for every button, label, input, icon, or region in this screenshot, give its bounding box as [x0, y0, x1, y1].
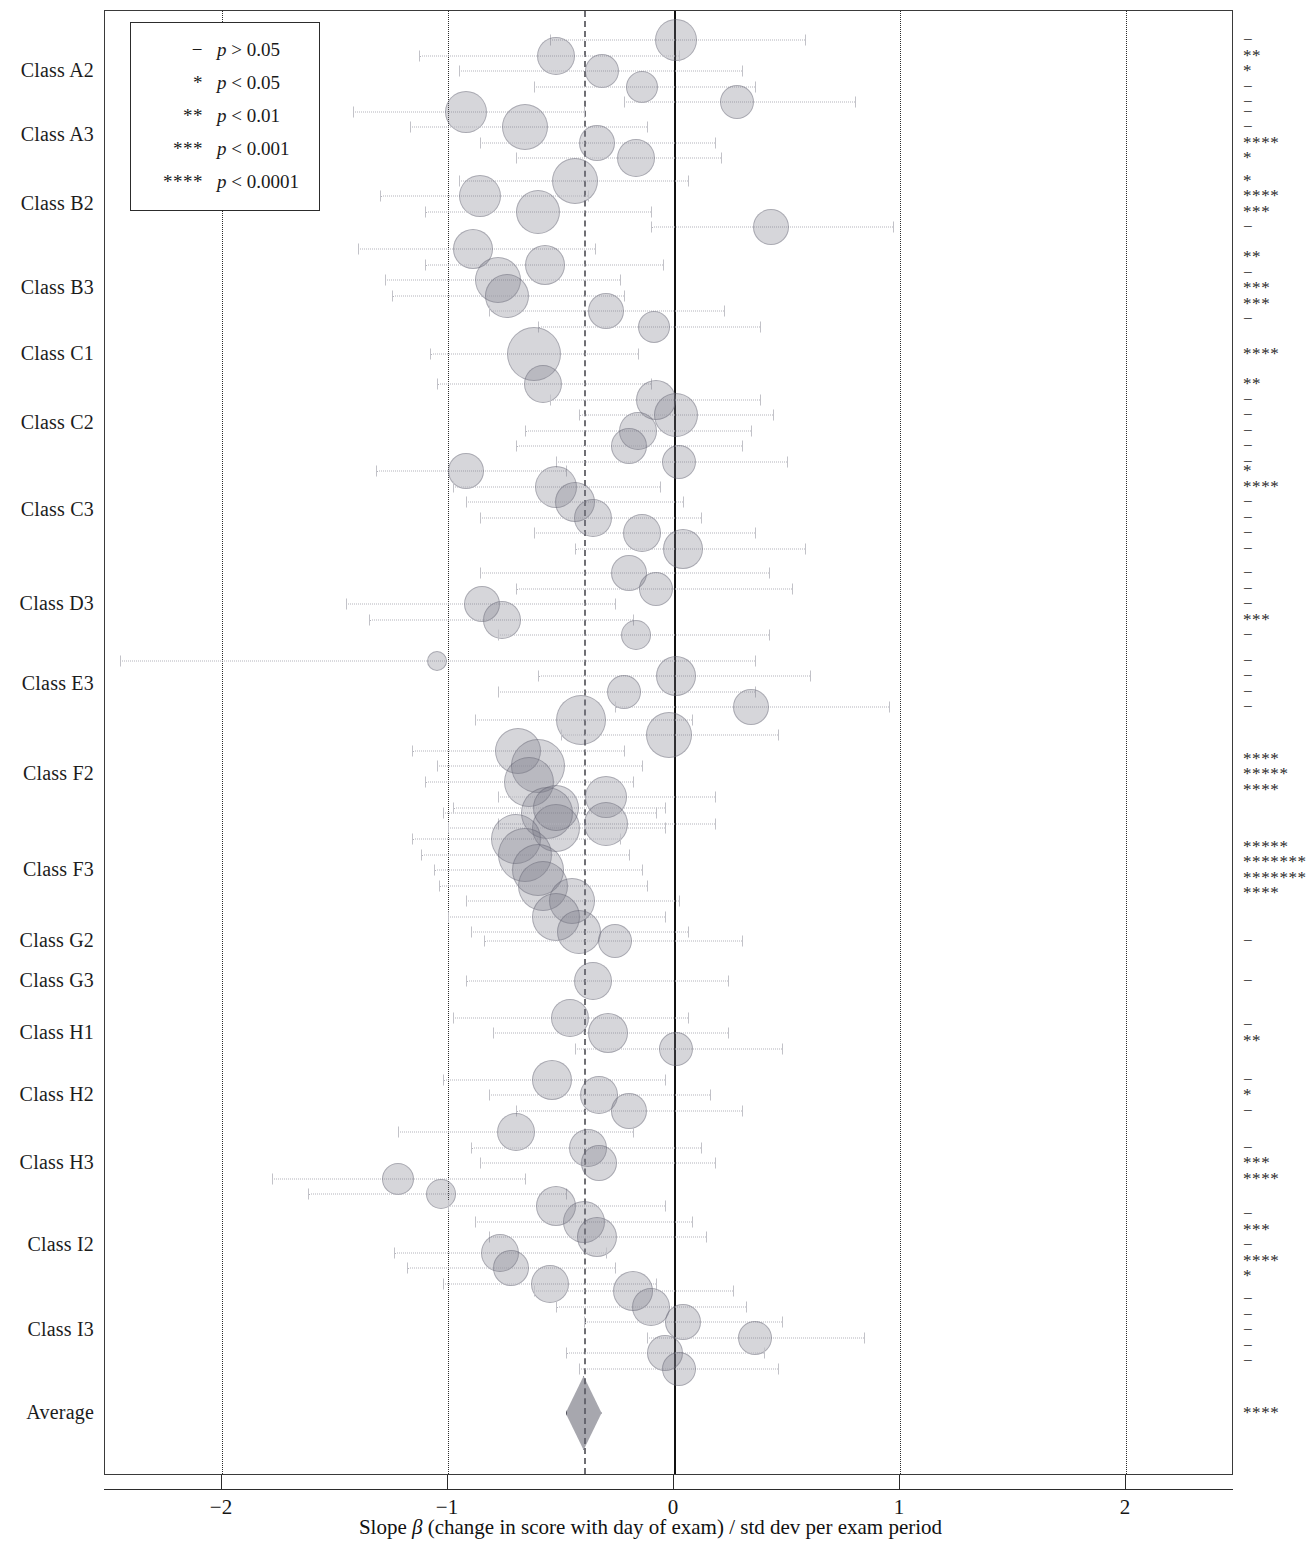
ci-cap-upper	[728, 1028, 729, 1039]
legend-p-symbol: p	[217, 39, 227, 60]
effect-size-marker	[516, 190, 560, 234]
x-tick	[899, 1475, 900, 1489]
ci-cap-upper	[692, 714, 693, 725]
ci-cap-upper	[764, 1348, 765, 1359]
effect-size-marker	[585, 54, 619, 88]
ci-cap-upper	[665, 911, 666, 922]
ci-cap-lower	[489, 1090, 490, 1101]
ci-cap-upper	[584, 106, 585, 117]
ci-cap-upper	[615, 599, 616, 610]
ci-cap-upper	[742, 66, 743, 77]
summary-diamond	[566, 1376, 602, 1450]
grid-plus-one	[900, 11, 901, 1474]
ci-cap-lower	[471, 1142, 472, 1153]
ci-cap-upper	[624, 745, 625, 756]
effect-size-marker	[556, 695, 606, 745]
legend-row: ****p < 0.0001	[141, 165, 307, 198]
ci-cap-upper	[642, 865, 643, 876]
legend-p-symbol: p	[217, 105, 227, 126]
effect-size-marker	[537, 37, 575, 75]
ci-cap-lower	[272, 1173, 273, 1184]
effect-size-marker	[621, 620, 651, 650]
significance-marker: ****	[1243, 1169, 1279, 1186]
ci-cap-lower	[394, 1247, 395, 1258]
effect-size-marker	[598, 924, 632, 958]
ci-cap-upper	[715, 1158, 716, 1169]
x-tick	[221, 1475, 222, 1489]
y-axis-label-class-a3: Class A3	[10, 123, 94, 146]
effect-size-marker	[532, 1060, 572, 1100]
ci-cap-lower	[475, 1216, 476, 1227]
ci-cap-lower	[385, 275, 386, 286]
ci-cap-lower	[376, 466, 377, 477]
ci-cap-upper	[755, 655, 756, 666]
ci-cap-lower	[353, 106, 354, 117]
ci-cap-upper	[805, 543, 806, 554]
ci-cap-lower	[412, 745, 413, 756]
ci-cap-lower	[459, 66, 460, 77]
ci-cap-upper	[633, 776, 634, 787]
effect-size-marker	[483, 601, 521, 639]
y-axis-label-class-i3: Class I3	[10, 1318, 94, 1341]
ci-cap-upper	[683, 497, 684, 508]
effect-size-marker	[659, 1032, 693, 1066]
ci-cap-lower	[308, 1189, 309, 1200]
effect-size-marker	[497, 1113, 535, 1151]
y-axis-label-class-i2: Class I2	[10, 1233, 94, 1256]
ci-cap-upper	[742, 441, 743, 452]
ci-cap-lower	[443, 1074, 444, 1085]
ci-cap-upper	[778, 1363, 779, 1374]
y-axis-label-class-g3: Class G3	[10, 969, 94, 992]
ci-cap-lower	[579, 1363, 580, 1374]
ci-cap-lower	[516, 441, 517, 452]
significance-marker: −	[1243, 626, 1253, 643]
ci-cap-upper	[651, 206, 652, 217]
effect-size-marker	[502, 104, 548, 150]
y-axis-label-class-h1: Class H1	[10, 1021, 94, 1044]
ci-cap-lower	[439, 880, 440, 891]
ci-cap-lower	[651, 222, 652, 233]
effect-size-marker	[525, 245, 565, 285]
significance-marker: **	[1243, 1031, 1261, 1048]
ci-cap-lower	[369, 614, 370, 625]
effect-size-marker	[665, 1304, 701, 1340]
ci-cap-upper	[778, 730, 779, 741]
ci-cap-upper	[715, 792, 716, 803]
significance-marker: *	[1243, 1267, 1252, 1284]
ci-cap-upper	[679, 50, 680, 61]
ci-cap-lower	[120, 655, 121, 666]
effect-size-marker	[579, 125, 615, 161]
legend-p-symbol: p	[217, 138, 227, 159]
y-axis-label-class-d3: Class D3	[10, 592, 94, 615]
effect-size-marker	[581, 1145, 617, 1181]
effect-size-marker	[753, 209, 789, 245]
legend-symbol: −	[141, 33, 217, 66]
y-axis-label-class-c2: Class C2	[10, 411, 94, 434]
y-axis-label-class-f3: Class F3	[10, 858, 94, 881]
significance-marker: −	[1243, 1352, 1253, 1369]
ci-cap-upper	[688, 175, 689, 186]
significance-legend: −p > 0.05*p < 0.05**p < 0.01***p < 0.001…	[130, 22, 320, 211]
ci-cap-lower	[647, 1332, 648, 1343]
ci-cap-upper	[620, 834, 621, 845]
ci-cap-upper	[728, 976, 729, 987]
ci-cap-upper	[665, 1074, 666, 1085]
ci-cap-lower	[448, 1201, 449, 1212]
legend-table: −p > 0.05*p < 0.05**p < 0.01***p < 0.001…	[141, 33, 307, 198]
effect-size-marker	[552, 158, 598, 204]
effect-size-marker	[524, 365, 562, 403]
legend-row: −p > 0.05	[141, 33, 307, 66]
ci-cap-upper	[710, 1090, 711, 1101]
ci-cap-lower	[561, 730, 562, 741]
plot-area	[104, 10, 1233, 1475]
effect-size-marker	[733, 689, 769, 725]
ci-cap-lower	[448, 823, 449, 834]
ci-cap-lower	[380, 191, 381, 202]
ci-cap-lower	[615, 702, 616, 713]
effect-size-marker	[574, 962, 612, 1000]
ci-cap-upper	[525, 1173, 526, 1184]
ci-cap-lower	[493, 1028, 494, 1039]
legend-threshold-text: p < 0.05	[217, 66, 307, 99]
ci-cap-lower	[489, 306, 490, 317]
ci-cap-lower	[358, 244, 359, 255]
